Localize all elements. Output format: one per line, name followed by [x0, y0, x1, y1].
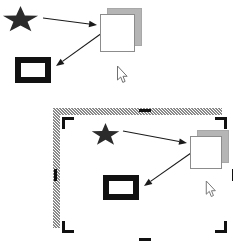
window-shape[interactable]	[190, 130, 227, 167]
unselected-scene[interactable]	[0, 0, 233, 92]
diagram-canvas	[0, 0, 233, 242]
window-face[interactable]	[100, 14, 135, 52]
handle-top-left[interactable]	[62, 117, 74, 129]
handle-right-middle[interactable]	[232, 169, 233, 181]
handle-bottom-left[interactable]	[62, 221, 74, 233]
handle-top-center[interactable]	[139, 109, 151, 112]
picture-frame-shape[interactable]	[15, 57, 51, 83]
selected-scene[interactable]	[46, 101, 229, 235]
handle-bottom-center[interactable]	[139, 238, 151, 241]
mouse-pointer-icon	[205, 181, 217, 198]
handle-bottom-right[interactable]	[215, 221, 227, 233]
handle-top-right[interactable]	[215, 117, 227, 129]
window-shape[interactable]	[100, 8, 140, 50]
picture-frame-shape[interactable]	[103, 175, 139, 200]
star-icon[interactable]	[91, 123, 120, 147]
mouse-pointer-icon	[116, 66, 129, 84]
selection-content-area	[60, 115, 229, 235]
handle-left-middle[interactable]	[54, 169, 57, 181]
window-face[interactable]	[190, 136, 222, 169]
star-icon[interactable]	[2, 6, 39, 34]
